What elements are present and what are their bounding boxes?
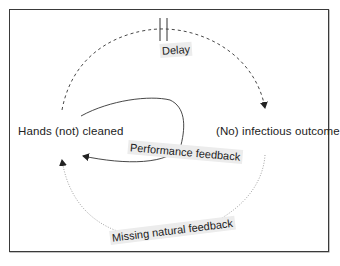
edge-label-delay: Delay: [160, 42, 193, 58]
delay-bar-icon: [160, 18, 167, 41]
node-hands-cleaned: Hands (not) cleaned: [18, 125, 123, 137]
delay-edge: [62, 29, 265, 110]
node-infectious-outcome: (No) infectious outcome: [216, 125, 340, 137]
